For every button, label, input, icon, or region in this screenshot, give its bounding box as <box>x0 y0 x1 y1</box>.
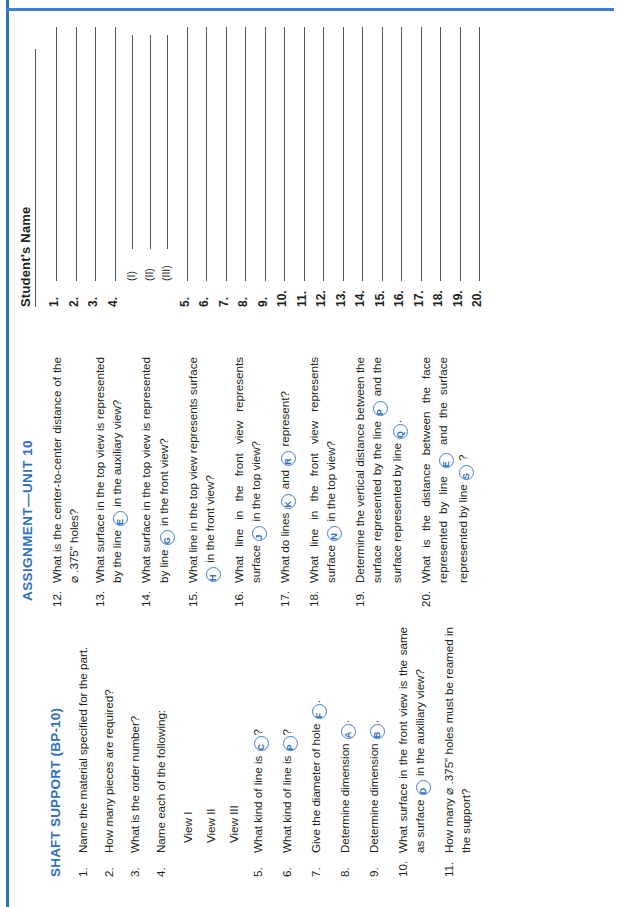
answer-blank-line[interactable] <box>206 27 207 281</box>
answer-row[interactable]: 13. <box>334 27 348 307</box>
answer-blank-line[interactable] <box>95 27 96 281</box>
question-text: What surface in the front view is the sa… <box>394 627 431 853</box>
answer-blank-line[interactable] <box>382 27 383 281</box>
answer-row[interactable]: 3. <box>86 27 100 307</box>
answer-number: 3. <box>86 281 100 307</box>
question-text: What kind of line is C? <box>249 627 269 853</box>
answer-row[interactable]: 7. <box>217 27 231 307</box>
question-item: 3.What is the order number? <box>126 627 143 877</box>
circled-label-n: N <box>327 526 342 541</box>
answer-row[interactable]: 12. <box>314 27 328 307</box>
section-title: SHAFT SUPPORT (BP-10) <box>48 708 63 877</box>
question-number: 12. <box>48 583 82 607</box>
answer-row[interactable]: (II) <box>143 27 155 281</box>
answer-number: 7. <box>217 281 231 307</box>
answer-blank-line[interactable] <box>187 27 188 281</box>
answer-row[interactable]: 15. <box>373 27 387 307</box>
answer-blank-line[interactable] <box>167 35 168 249</box>
answer-blank-line[interactable] <box>150 35 151 249</box>
answer-row[interactable]: 8. <box>236 27 250 307</box>
question-item: 19.Determine the vertical distance betwe… <box>351 357 408 607</box>
question-number: 11. <box>440 853 474 877</box>
answer-blank-line[interactable] <box>245 27 246 281</box>
page-sheet: ASSIGNMENT—UNIT 10 SHAFT SUPPORT (BP-10)… <box>0 0 623 907</box>
question-item: 5.What kind of line is C? <box>249 627 269 877</box>
question-number: 10. <box>394 853 431 877</box>
question-item: 17.What do lines K and R represent? <box>276 357 296 607</box>
question-item: 4.Name each of the following: <box>152 627 169 877</box>
answer-blank-line[interactable] <box>440 27 441 281</box>
answer-number: 20. <box>470 281 484 307</box>
question-number: 17. <box>276 583 296 607</box>
answer-row[interactable]: 19. <box>451 27 465 307</box>
circled-label-g: G <box>160 530 175 545</box>
answer-blank-line[interactable] <box>132 35 133 249</box>
answer-blank-line[interactable] <box>343 27 344 281</box>
question-number: 8. <box>336 853 356 877</box>
answer-number: (III) <box>160 249 172 281</box>
answer-blank-line[interactable] <box>284 27 285 281</box>
question-text: What line in the top view represents sur… <box>184 357 221 583</box>
answer-blank-line[interactable] <box>479 27 480 281</box>
answer-blank-line[interactable] <box>421 27 422 281</box>
answer-blank-line[interactable] <box>76 27 77 281</box>
circled-label-s: S <box>459 465 474 480</box>
answer-row[interactable]: 5. <box>178 27 192 307</box>
question-number: 4. <box>152 853 169 877</box>
answer-blank-line[interactable] <box>362 27 363 281</box>
answer-row[interactable]: 14. <box>353 27 367 307</box>
answer-blank-line[interactable] <box>460 27 461 281</box>
answer-row[interactable]: (III) <box>160 27 172 281</box>
answer-row[interactable]: 9. <box>256 27 270 307</box>
question-item: 8.Determine dimension A. <box>336 627 356 877</box>
answer-blank-line[interactable] <box>304 27 305 281</box>
answer-blank-line[interactable] <box>226 27 227 281</box>
answer-row[interactable]: 6. <box>197 27 211 307</box>
answer-row[interactable]: (I) <box>125 27 137 281</box>
answer-row[interactable]: 18. <box>431 27 445 307</box>
question-item: 10.What surface in the front view is the… <box>394 627 431 877</box>
answer-blank-line[interactable] <box>115 27 116 281</box>
circled-label-e: E <box>113 511 128 526</box>
question-item: 2.How many pieces are required? <box>100 627 117 877</box>
answer-number: 16. <box>392 281 406 307</box>
question-item: 14.What surface in the top view is repre… <box>137 357 174 607</box>
answer-number: 4. <box>106 281 120 307</box>
question-number: 14. <box>137 583 174 607</box>
answer-blank-line[interactable] <box>56 27 57 281</box>
question-item: 7.Give the diameter of hole F. <box>307 627 327 877</box>
students-name-label: Student's Name <box>18 27 33 307</box>
question-text: Name the material specified for the part… <box>74 627 91 853</box>
circled-label-j: J <box>252 526 267 541</box>
assignment-title: ASSIGNMENT—UNIT 10 <box>20 440 35 601</box>
answer-blank-line[interactable] <box>323 27 324 281</box>
question-text: Determine the vertical distance between … <box>351 357 408 583</box>
answer-row[interactable]: 4. <box>106 27 120 307</box>
question-item: 13.What surface in the top view is repre… <box>91 357 128 607</box>
answer-row[interactable]: 16. <box>392 27 406 307</box>
answer-row[interactable]: 2. <box>67 27 81 307</box>
question-number: 9. <box>365 853 385 877</box>
question-item: 6.What kind of line is P? <box>278 627 298 877</box>
question-item: 16.What line in the front view represent… <box>230 357 267 607</box>
answer-number: 9. <box>256 281 270 307</box>
question-text: What line in the front view represents s… <box>230 357 267 583</box>
answer-row[interactable]: 11. <box>295 27 309 307</box>
answer-blank-line[interactable] <box>401 27 402 281</box>
question-text: What is the center-to-center distance of… <box>48 357 82 583</box>
answer-number: 18. <box>431 281 445 307</box>
answer-row[interactable]: 20. <box>470 27 484 307</box>
answer-row[interactable]: 17. <box>412 27 426 307</box>
answer-row[interactable]: 10. <box>275 27 289 307</box>
question-number: 5. <box>249 853 269 877</box>
answer-blank-line[interactable] <box>265 27 266 281</box>
answer-row[interactable]: 1. <box>47 27 61 307</box>
circled-label-p: P <box>373 401 388 416</box>
question-text: Give the diameter of hole F. <box>307 627 327 853</box>
circled-label-k: K <box>281 494 296 509</box>
question-text: What do lines K and R represent? <box>276 357 296 583</box>
question-number: 3. <box>126 853 143 877</box>
circled-label-c: C <box>254 736 269 751</box>
students-name-line[interactable] <box>35 49 36 307</box>
question-item: 9.Determine dimension B. <box>365 627 385 877</box>
